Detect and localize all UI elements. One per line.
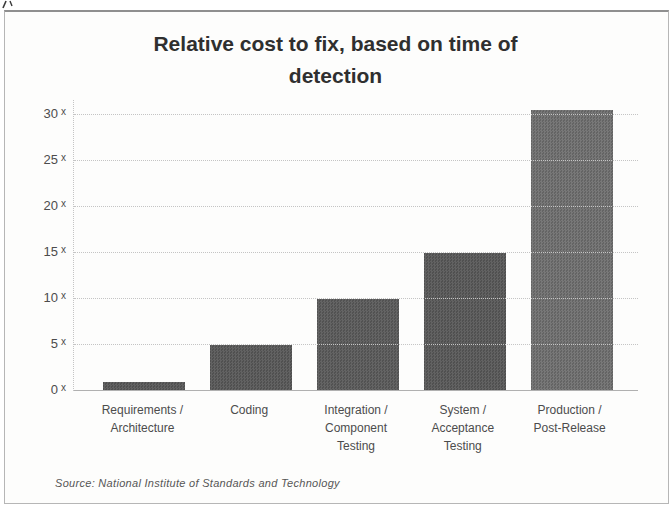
y-tick-label-10x: 10x [44, 290, 66, 305]
gridline-0x [74, 390, 638, 391]
gridline-25x [74, 160, 638, 161]
bars-group [90, 100, 625, 391]
source-note: Source: National Institute of Standards … [55, 477, 340, 489]
gridline-5x [74, 344, 638, 345]
x-axis-labels: Requirements /ArchitectureCodingIntegrat… [89, 401, 623, 455]
x-tick-label-3: System /AcceptanceTesting [409, 401, 516, 455]
plot-area [73, 100, 638, 391]
scanned-bar-chart: Relative cost to fix, based on time of d… [0, 0, 671, 514]
y-tick-label-5x: 5x [51, 336, 66, 351]
x-tick-label-2: Integration /ComponentTesting [303, 401, 410, 455]
gridline-10x [74, 298, 638, 299]
scan-artifact-mark [1, 0, 17, 10]
y-tick-label-30x: 30x [44, 106, 66, 121]
gridline-20x [74, 206, 638, 207]
x-tick-label-0: Requirements /Architecture [89, 401, 196, 455]
bar-4 [531, 110, 613, 391]
x-tick-label-4: Production /Post-Release [516, 401, 623, 455]
bar-slot [518, 100, 625, 391]
x-tick-label-1: Coding [196, 401, 303, 455]
bar-3 [424, 253, 506, 391]
bar-slot [197, 100, 304, 391]
bar-1 [210, 345, 292, 391]
bar-slot [304, 100, 411, 391]
y-tick-label-0x: 0x [51, 382, 66, 397]
chart-title: Relative cost to fix, based on time of d… [106, 28, 566, 91]
y-tick-label-25x: 25x [44, 152, 66, 167]
gridline-15x [74, 252, 638, 253]
bar-slot [90, 100, 197, 391]
y-tick-label-20x: 20x [44, 198, 66, 213]
gridline-30x [74, 114, 638, 115]
bar-slot [411, 100, 518, 391]
y-tick-label-15x: 15x [44, 244, 66, 259]
